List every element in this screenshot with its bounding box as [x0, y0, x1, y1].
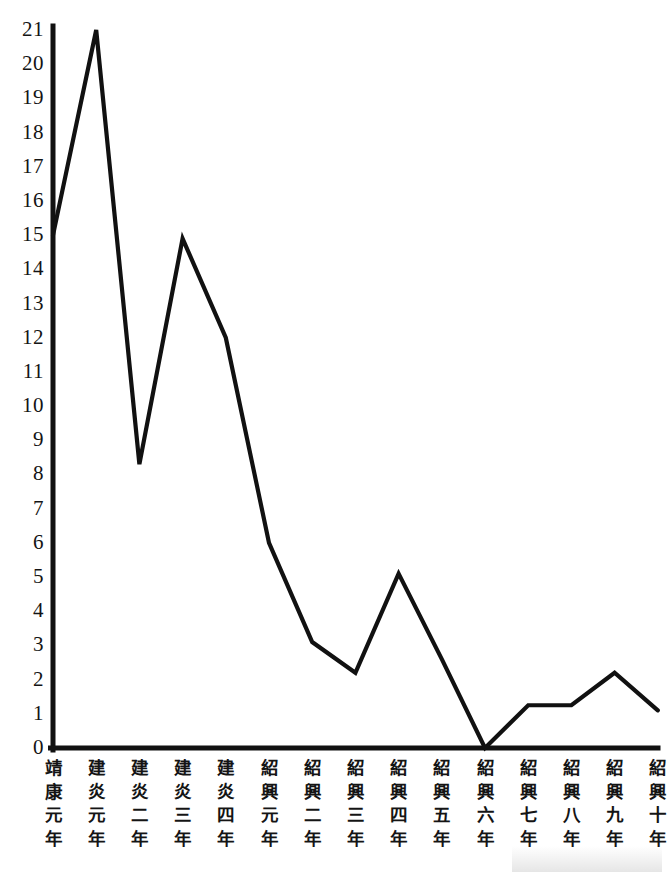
- y-tick-label: 16: [2, 190, 44, 211]
- x-tick-label-char: 四: [386, 804, 412, 828]
- x-tick-label-char: 靖: [40, 757, 66, 781]
- y-tick-label: 20: [2, 53, 44, 74]
- x-tick-label-char: 三: [170, 804, 196, 828]
- data-series-line: [53, 30, 658, 748]
- x-tick-label: 紹興三年: [342, 757, 368, 851]
- x-tick-label-char: 四: [213, 804, 239, 828]
- x-tick-label: 紹興十年: [645, 757, 671, 851]
- x-tick-label-char: 興: [299, 781, 325, 805]
- x-tick-label: 紹興七年: [515, 757, 541, 851]
- y-tick-label: 12: [2, 327, 44, 348]
- x-tick-label: 紹興六年: [472, 757, 498, 851]
- x-tick-label-char: 建: [126, 757, 152, 781]
- y-tick-label: 17: [2, 156, 44, 177]
- x-tick-label-char: 年: [256, 828, 282, 852]
- y-tick-label: 5: [2, 566, 44, 587]
- x-tick-label: 紹興九年: [602, 757, 628, 851]
- y-tick-label: 8: [2, 463, 44, 484]
- x-tick-label: 紹興二年: [299, 757, 325, 851]
- y-tick-label: 4: [2, 600, 44, 621]
- x-tick-label-char: 年: [83, 828, 109, 852]
- x-tick-label-char: 年: [602, 828, 628, 852]
- x-tick-label-char: 年: [645, 828, 671, 852]
- y-tick-label: 6: [2, 532, 44, 553]
- x-tick-label-char: 二: [299, 804, 325, 828]
- chart-canvas: [0, 0, 662, 760]
- y-tick-label: 9: [2, 429, 44, 450]
- x-tick-label-char: 興: [558, 781, 584, 805]
- x-tick-label-char: 十: [645, 804, 671, 828]
- x-tick-label-char: 紹: [602, 757, 628, 781]
- x-tick-label-char: 興: [429, 781, 455, 805]
- x-tick-label-char: 年: [299, 828, 325, 852]
- y-tick-label: 21: [2, 19, 44, 40]
- x-tick-label-char: 建: [170, 757, 196, 781]
- y-tick-label: 1: [2, 703, 44, 724]
- x-tick-label-char: 康: [40, 781, 66, 805]
- x-tick-label-char: 年: [213, 828, 239, 852]
- x-tick-label-char: 二: [126, 804, 152, 828]
- x-tick-label-char: 興: [645, 781, 671, 805]
- x-tick-label-char: 元: [83, 804, 109, 828]
- x-tick-label-char: 九: [602, 804, 628, 828]
- x-tick-label: 建炎二年: [126, 757, 152, 851]
- x-tick-label-char: 興: [472, 781, 498, 805]
- x-tick-label-char: 年: [472, 828, 498, 852]
- x-tick-label: 紹興元年: [256, 757, 282, 851]
- x-tick-label: 建炎四年: [213, 757, 239, 851]
- x-tick-label-char: 五: [429, 804, 455, 828]
- y-tick-label: 13: [2, 293, 44, 314]
- x-tick-label-char: 年: [170, 828, 196, 852]
- x-tick-label-char: 三: [342, 804, 368, 828]
- x-tick-label-char: 六: [472, 804, 498, 828]
- x-tick-label: 建炎三年: [170, 757, 196, 851]
- x-tick-label: 紹興五年: [429, 757, 455, 851]
- x-axis-tick-labels: 靖康元年建炎元年建炎二年建炎三年建炎四年紹興元年紹興二年紹興三年紹興四年紹興五年…: [0, 757, 662, 872]
- y-tick-label: 18: [2, 122, 44, 143]
- x-tick-label-char: 紹: [429, 757, 455, 781]
- x-tick-label-char: 炎: [213, 781, 239, 805]
- y-tick-label: 3: [2, 634, 44, 655]
- x-tick-label-char: 八: [558, 804, 584, 828]
- x-tick-label: 紹興八年: [558, 757, 584, 851]
- y-tick-label: 15: [2, 224, 44, 245]
- x-tick-label-char: 元: [256, 804, 282, 828]
- x-tick-label-char: 炎: [170, 781, 196, 805]
- x-tick-label-char: 建: [83, 757, 109, 781]
- x-tick-label-char: 紹: [342, 757, 368, 781]
- x-tick-label-char: 年: [40, 828, 66, 852]
- x-tick-label-char: 興: [602, 781, 628, 805]
- x-tick-label-char: 年: [515, 828, 541, 852]
- x-tick-label-char: 紹: [558, 757, 584, 781]
- x-tick-label-char: 興: [386, 781, 412, 805]
- x-tick-label: 建炎元年: [83, 757, 109, 851]
- x-tick-label-char: 紹: [256, 757, 282, 781]
- y-axis-tick-labels: 0123456789101112131415161718192021: [0, 0, 44, 760]
- plot-area: 0123456789101112131415161718192021: [0, 0, 662, 760]
- x-tick-label-char: 興: [515, 781, 541, 805]
- y-tick-label: 0: [2, 737, 44, 758]
- x-tick-label: 紹興四年: [386, 757, 412, 851]
- x-tick-label-char: 紹: [472, 757, 498, 781]
- x-tick-label-char: 年: [386, 828, 412, 852]
- x-tick-label-char: 興: [342, 781, 368, 805]
- y-tick-label: 14: [2, 258, 44, 279]
- x-tick-label-char: 紹: [386, 757, 412, 781]
- y-tick-label: 7: [2, 498, 44, 519]
- x-tick-label-char: 興: [256, 781, 282, 805]
- y-tick-label: 19: [2, 87, 44, 108]
- x-tick-label-char: 紹: [645, 757, 671, 781]
- x-tick-label-char: 紹: [299, 757, 325, 781]
- x-tick-label: 靖康元年: [40, 757, 66, 851]
- x-tick-label-char: 年: [342, 828, 368, 852]
- x-tick-label-char: 建: [213, 757, 239, 781]
- y-tick-label: 11: [2, 361, 44, 382]
- y-tick-label: 2: [2, 669, 44, 690]
- x-tick-label-char: 七: [515, 804, 541, 828]
- x-tick-label-char: 炎: [126, 781, 152, 805]
- x-tick-label-char: 紹: [515, 757, 541, 781]
- x-tick-label-char: 元: [40, 804, 66, 828]
- x-tick-label-char: 年: [126, 828, 152, 852]
- x-tick-label-char: 年: [558, 828, 584, 852]
